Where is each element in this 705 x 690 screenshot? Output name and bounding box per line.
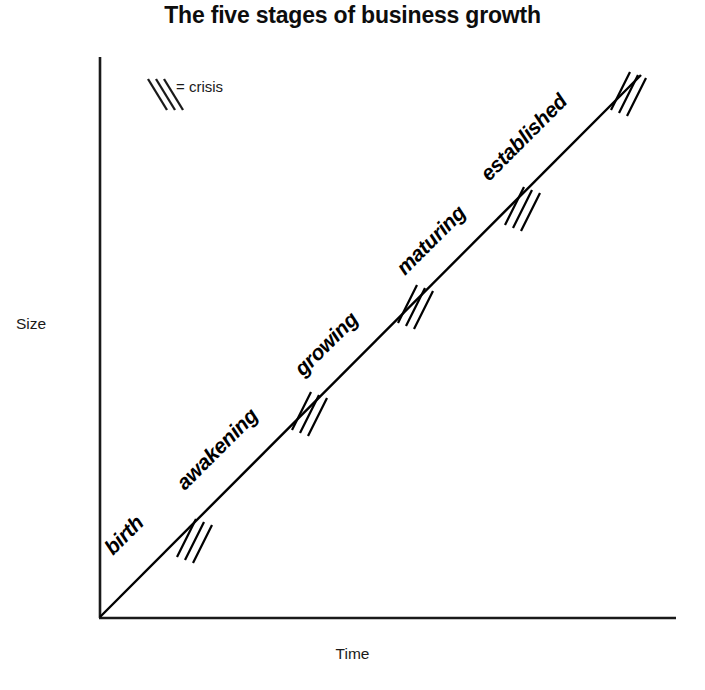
chart-canvas: birth awakening growing maturing establi…	[0, 0, 705, 690]
business-growth-chart: The five stages of business growth Size …	[0, 0, 705, 690]
stage-label-established: established	[476, 88, 573, 185]
stage-label-maturing: maturing	[392, 200, 470, 278]
crisis-marker-established	[611, 72, 646, 116]
stage-label-birth: birth	[100, 511, 148, 559]
crisis-marker-growing	[398, 285, 433, 329]
stage-label-awakening: awakening	[172, 403, 263, 494]
crisis-marker-awakening	[292, 392, 327, 436]
legend-triple-slash-icon	[148, 79, 183, 110]
crisis-marker-birth	[177, 519, 212, 563]
growth-line	[100, 75, 641, 617]
stage-label-growing: growing	[289, 307, 363, 381]
